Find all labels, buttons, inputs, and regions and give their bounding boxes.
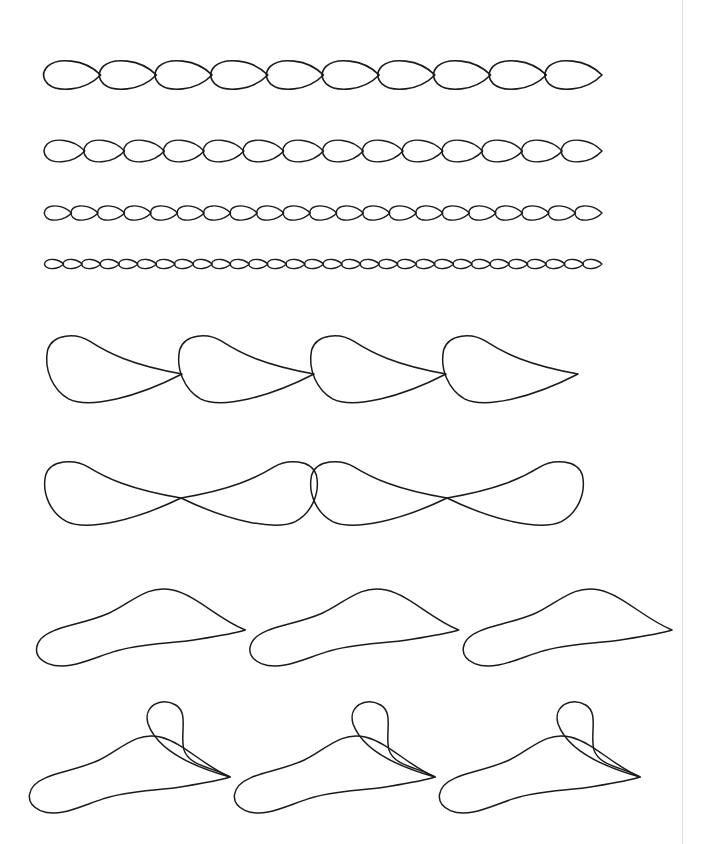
s-ribbon: [37, 589, 246, 666]
teardrop-loop: [230, 259, 249, 268]
flourish-hook: [147, 702, 230, 777]
teardrop-loop: [363, 206, 390, 220]
s-ribbon-chain: [37, 589, 672, 666]
s-ribbon: [234, 736, 435, 813]
mirrored-swoosh-pair-chain: [45, 462, 584, 525]
teardrop-loop: [416, 206, 443, 220]
swoosh-leaf-left: [45, 462, 181, 525]
teardrop-loop: [177, 206, 204, 220]
swoosh-leaf: [47, 336, 182, 403]
s-ribbon: [250, 589, 459, 666]
teardrop-loop: [490, 259, 509, 268]
s-ribbon: [29, 736, 230, 813]
teardrop-loop: [266, 61, 323, 89]
teardrop-loop: [155, 61, 212, 89]
teardrop-loop: [379, 259, 398, 268]
teardrop-loop: [97, 206, 124, 220]
swoosh-leaf: [179, 336, 314, 403]
teardrop-loop: [495, 206, 522, 220]
teardrop-loop: [489, 61, 546, 89]
s-ribbon-with-flourish-chain: [29, 702, 640, 813]
teardrop-loop: [243, 140, 284, 162]
teardrop-loop: [378, 61, 435, 89]
teardrop-loop: [564, 259, 583, 268]
teardrop-loop: [309, 206, 336, 220]
teardrop-loop: [44, 140, 85, 162]
teardrop-loop: [63, 259, 82, 268]
teardrop-loop: [521, 140, 562, 162]
teardrop-loop: [546, 259, 565, 268]
teardrop-loop: [163, 140, 204, 162]
teardrop-chain-large: [43, 61, 602, 89]
teardrop-loop: [362, 140, 403, 162]
teardrop-loop: [323, 259, 342, 268]
teardrop-loop: [583, 259, 602, 268]
teardrop-loop: [193, 259, 212, 268]
teardrop-loop: [230, 206, 257, 220]
teardrop-loop: [286, 259, 305, 268]
teardrop-loop: [123, 140, 164, 162]
teardrop-loop: [44, 259, 63, 268]
flourish-hook: [557, 702, 640, 777]
teardrop-loop: [119, 259, 138, 268]
pattern-sheet-page: [0, 0, 702, 844]
teardrop-loop: [442, 140, 483, 162]
swoosh-leaf: [311, 336, 446, 403]
teardrop-loop: [561, 140, 602, 162]
teardrop-loop: [402, 140, 443, 162]
teardrop-loop: [71, 206, 98, 220]
teardrop-loop: [137, 259, 156, 268]
teardrop-loop: [442, 206, 469, 220]
teardrop-loop: [527, 259, 546, 268]
teardrop-loop: [304, 259, 323, 268]
s-ribbon: [463, 589, 672, 666]
teardrop-loop: [211, 61, 268, 89]
flourish-hook: [352, 702, 435, 777]
teardrop-loop: [522, 206, 549, 220]
teardrop-loop: [509, 259, 528, 268]
teardrop-loop: [99, 61, 156, 89]
teardrop-loop: [469, 206, 496, 220]
teardrop-loop: [100, 259, 119, 268]
teardrop-loop: [360, 259, 379, 268]
teardrop-loop: [203, 206, 230, 220]
swoosh-leaf-left: [311, 462, 447, 525]
teardrop-loop: [124, 206, 151, 220]
teardrop-chain-medium: [44, 140, 602, 162]
teardrop-loop: [545, 61, 602, 89]
swoosh-leaf-right-mirrored: [447, 462, 583, 525]
teardrop-loop: [548, 206, 575, 220]
pattern-rows-group: [29, 61, 672, 813]
teardrop-loop: [44, 206, 71, 220]
swoosh-leaf: [443, 336, 578, 403]
s-ribbon: [439, 736, 640, 813]
teardrop-loop: [389, 206, 416, 220]
teardrop-chain-tiny: [44, 259, 602, 268]
teardrop-loop: [43, 61, 100, 89]
teardrop-loop: [322, 61, 379, 89]
teardrop-loop: [434, 259, 453, 268]
teardrop-loop: [433, 61, 490, 89]
teardrop-loop: [342, 259, 361, 268]
teardrop-loop: [283, 140, 324, 162]
teardrop-loop: [336, 206, 363, 220]
swoosh-leaf-chain: [47, 336, 578, 403]
teardrop-loop: [471, 259, 490, 268]
teardrop-loop: [453, 259, 472, 268]
teardrop-loop: [174, 259, 193, 268]
teardrop-loop: [150, 206, 177, 220]
stroke-pattern-artboard: [0, 0, 702, 844]
teardrop-loop: [212, 259, 231, 268]
teardrop-loop: [416, 259, 435, 268]
teardrop-loop: [82, 259, 101, 268]
teardrop-loop: [249, 259, 268, 268]
teardrop-loop: [267, 259, 286, 268]
teardrop-loop: [397, 259, 416, 268]
teardrop-loop: [322, 140, 363, 162]
swoosh-leaf-right-mirrored: [181, 462, 317, 525]
teardrop-loop: [203, 140, 244, 162]
teardrop-chain-small: [44, 206, 602, 220]
teardrop-loop: [156, 259, 175, 268]
teardrop-loop: [283, 206, 310, 220]
teardrop-loop: [575, 206, 602, 220]
